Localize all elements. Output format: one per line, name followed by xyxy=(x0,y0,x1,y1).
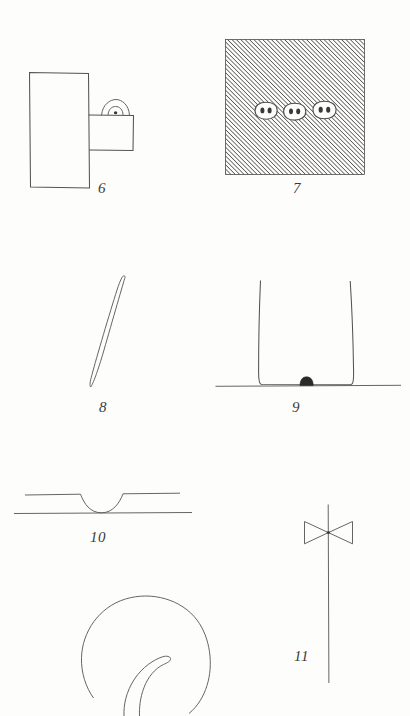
figure-6-drawing xyxy=(0,0,205,210)
figure-label-11: 11 xyxy=(294,648,309,665)
plaque-1 xyxy=(255,102,277,119)
figure-circle-cropped xyxy=(60,580,250,716)
vessel-outline-shape xyxy=(259,281,354,385)
base-blob-shape xyxy=(300,377,313,386)
figure-9-drawing xyxy=(205,250,410,430)
attached-square-shape xyxy=(89,115,134,151)
plaque-3-dot-right xyxy=(326,107,330,113)
bowtie-center-dot-icon xyxy=(327,531,330,534)
lower-ground-line xyxy=(14,513,192,514)
plaque-1-dot-right xyxy=(268,108,272,114)
bowtie-right-triangle xyxy=(328,522,352,544)
figure-label-10: 10 xyxy=(90,529,106,546)
tall-rectangle-shape xyxy=(30,73,90,189)
plaque-3 xyxy=(313,101,336,119)
figure-label-9: 9 xyxy=(292,399,300,416)
figure-6: 6 xyxy=(0,0,205,210)
figure-9: 9 xyxy=(205,250,410,430)
figure-label-8: 8 xyxy=(99,399,107,416)
figure-10: 10 xyxy=(0,460,205,570)
plaque-2-dot-left xyxy=(289,108,293,114)
large-circle-outline xyxy=(81,596,210,713)
handle-rivet-icon xyxy=(114,111,117,114)
figure-label-6: 6 xyxy=(98,180,106,197)
bowtie-left-triangle xyxy=(305,522,329,544)
sliver-needle-shape xyxy=(90,276,125,387)
plaque-2 xyxy=(284,103,306,120)
plaque-1-dot-left xyxy=(260,108,264,114)
figure-label-7: 7 xyxy=(293,180,301,197)
figure-7-drawing xyxy=(205,0,410,210)
inner-leaf-shape xyxy=(124,656,171,716)
figure-10-drawing xyxy=(0,460,205,570)
figure-7: 7 xyxy=(205,0,410,210)
figure-8: 8 xyxy=(0,250,205,430)
plaque-3-dot-left xyxy=(319,107,323,113)
plaque-2-dot-right xyxy=(296,108,300,114)
circle-leaf-drawing xyxy=(60,580,250,716)
upper-line-with-dip xyxy=(25,493,180,513)
plate-page: 6 xyxy=(0,0,410,716)
